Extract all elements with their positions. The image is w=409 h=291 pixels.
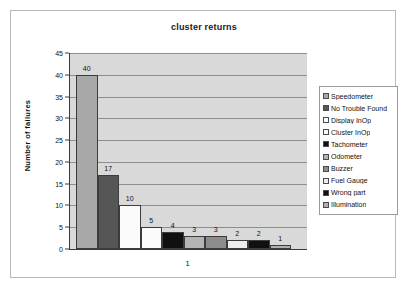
chart-legend: SpeedometerNo Trouble FoundDisplay InOpC… xyxy=(319,86,398,215)
legend-item[interactable]: Buzzer xyxy=(323,163,394,175)
y-axis-tick-label: 20 xyxy=(55,158,63,165)
legend-item[interactable]: Cluster InOp xyxy=(323,126,394,138)
y-axis-tick-label: 0 xyxy=(59,246,63,253)
y-axis-tick-label: 5 xyxy=(59,224,63,231)
y-axis-tick-label: 45 xyxy=(55,50,63,57)
bar-value-label: 1 xyxy=(278,235,282,242)
bar-value-label: 5 xyxy=(149,217,153,224)
legend-item-label: Display InOp xyxy=(331,117,371,124)
y-axis-tick-label: 40 xyxy=(55,71,63,78)
bar[interactable] xyxy=(205,236,227,249)
legend-item-label: Fuel Gauge xyxy=(331,177,368,184)
bar[interactable] xyxy=(141,227,163,249)
bars-layer: 4017105433221 xyxy=(70,53,307,249)
legend-swatch-icon xyxy=(323,141,329,147)
legend-swatch-icon xyxy=(323,117,329,123)
legend-item-label: Cluster InOp xyxy=(331,129,370,136)
bar[interactable] xyxy=(98,175,120,249)
x-axis-category-label: 1 xyxy=(69,259,306,268)
legend-item-label: Odometer xyxy=(331,153,362,160)
bar-value-label: 2 xyxy=(235,230,239,237)
bar[interactable] xyxy=(248,240,270,249)
legend-swatch-icon xyxy=(323,154,329,160)
legend-swatch-icon xyxy=(323,129,329,135)
legend-item-label: No Trouble Found xyxy=(331,105,387,112)
legend-swatch-icon xyxy=(323,93,329,99)
legend-item[interactable]: Fuel Gauge xyxy=(323,175,394,187)
y-axis-tick-label: 25 xyxy=(55,137,63,144)
legend-item-label: Speedometer xyxy=(331,93,373,100)
bar[interactable] xyxy=(162,232,184,249)
legend-swatch-icon xyxy=(323,190,329,196)
legend-swatch-icon xyxy=(323,202,329,208)
bar[interactable] xyxy=(184,236,206,249)
legend-item-label: Tachometer xyxy=(331,141,368,148)
chart-frame: cluster returns Number of failures 05101… xyxy=(10,10,396,278)
y-axis-tick-label: 35 xyxy=(55,93,63,100)
bar-value-label: 2 xyxy=(257,230,261,237)
bar[interactable] xyxy=(119,205,141,249)
legend-item[interactable]: Odometer xyxy=(323,150,394,162)
bar[interactable] xyxy=(76,75,98,249)
bar-value-label: 4 xyxy=(171,222,175,229)
bar[interactable] xyxy=(227,240,249,249)
bar-value-label: 3 xyxy=(192,226,196,233)
bar-value-label: 40 xyxy=(83,65,91,72)
y-axis-tick-label: 30 xyxy=(55,115,63,122)
legend-item[interactable]: Wrong part xyxy=(323,187,394,199)
bar-value-label: 17 xyxy=(104,165,112,172)
legend-item[interactable]: Display InOp xyxy=(323,114,394,126)
legend-item[interactable]: Illumination xyxy=(323,199,394,211)
y-axis-tick-label: 10 xyxy=(55,202,63,209)
y-axis-ticks: 051015202530354045 xyxy=(11,53,69,249)
bar[interactable] xyxy=(270,245,292,249)
legend-item-label: Wrong part xyxy=(331,189,366,196)
bar-value-label: 10 xyxy=(126,195,134,202)
y-axis-tick-label: 15 xyxy=(55,180,63,187)
legend-item[interactable]: Speedometer xyxy=(323,90,394,102)
legend-item-label: Illumination xyxy=(331,201,366,208)
legend-swatch-icon xyxy=(323,166,329,172)
bar-value-label: 3 xyxy=(214,226,218,233)
legend-swatch-icon xyxy=(323,178,329,184)
legend-item-label: Buzzer xyxy=(331,165,353,172)
chart-title: cluster returns xyxy=(11,22,397,32)
legend-item[interactable]: Tachometer xyxy=(323,138,394,150)
legend-item[interactable]: No Trouble Found xyxy=(323,102,394,114)
plot-area: 4017105433221 xyxy=(69,53,307,250)
legend-swatch-icon xyxy=(323,105,329,111)
